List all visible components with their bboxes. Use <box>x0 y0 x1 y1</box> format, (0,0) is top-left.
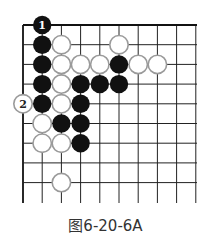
white-stone <box>148 55 166 73</box>
black-stone: 1 <box>33 16 51 34</box>
white-stone <box>91 55 109 73</box>
black-stone <box>52 114 70 132</box>
white-stone <box>52 134 70 152</box>
white-stone <box>71 55 89 73</box>
white-stone <box>33 114 51 132</box>
white-stone <box>110 36 128 54</box>
white-stone <box>52 36 70 54</box>
black-stone <box>33 55 51 73</box>
black-stone <box>33 95 51 113</box>
white-stone <box>129 55 147 73</box>
black-stone <box>33 36 51 54</box>
white-stone <box>52 95 70 113</box>
white-stone <box>33 134 51 152</box>
black-stone <box>71 114 89 132</box>
black-stone <box>33 75 51 93</box>
white-stone <box>52 55 70 73</box>
move-number-label: 2 <box>19 98 27 111</box>
grid-lines <box>23 25 197 203</box>
black-stone <box>110 55 128 73</box>
white-stone: 2 <box>14 95 32 113</box>
black-stone <box>71 134 89 152</box>
black-stone <box>91 75 109 93</box>
white-stone <box>52 173 70 191</box>
move-number-label: 1 <box>38 19 46 32</box>
black-stone <box>71 95 89 113</box>
black-stone <box>71 75 89 93</box>
white-stone <box>52 75 70 93</box>
go-board: 12 <box>0 0 211 210</box>
black-stone <box>110 75 128 93</box>
figure-caption: 图6-20-6A <box>0 214 211 235</box>
